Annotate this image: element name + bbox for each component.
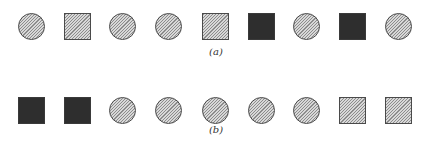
panel-b-row [0, 97, 429, 127]
hatched-circle-icon [109, 97, 136, 124]
hatched-circle-icon [293, 13, 320, 40]
hatched-circle-icon [202, 97, 229, 124]
panel-b-label: (b) [196, 124, 236, 135]
hatched-square-icon [339, 97, 366, 124]
hatched-square-icon [202, 13, 229, 40]
black-square-icon [248, 13, 275, 40]
hatched-circle-icon [109, 13, 136, 40]
hatched-circle-icon [248, 97, 275, 124]
hatched-circle-icon [18, 13, 45, 40]
hatched-circle-icon [155, 97, 182, 124]
black-square-icon [18, 97, 45, 124]
panel-a-label: (a) [196, 46, 236, 57]
black-square-icon [64, 97, 91, 124]
black-square-icon [339, 13, 366, 40]
hatched-circle-icon [155, 13, 182, 40]
hatched-square-icon [385, 97, 412, 124]
panel-a-row [0, 13, 429, 43]
hatched-circle-icon [385, 13, 412, 40]
hatched-square-icon [64, 13, 91, 40]
hatched-circle-icon [293, 97, 320, 124]
